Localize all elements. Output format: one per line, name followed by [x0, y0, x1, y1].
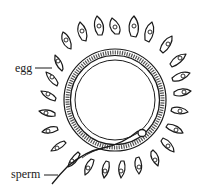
sperm-head [138, 130, 146, 137]
egg-fertilization-diagram [0, 0, 215, 195]
sperm-cell [52, 130, 146, 185]
sperm-label: sperm [11, 168, 40, 180]
egg-label: egg [15, 62, 32, 74]
egg-membrane [75, 60, 155, 140]
